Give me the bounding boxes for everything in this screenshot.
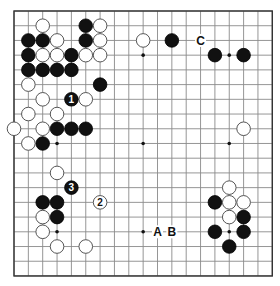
white-stone — [36, 48, 50, 62]
move-number: 2 — [97, 197, 103, 208]
star-point — [141, 53, 145, 57]
star-point — [227, 230, 231, 234]
white-stone — [50, 34, 64, 48]
white-stone — [22, 137, 36, 151]
white-stone — [93, 34, 107, 48]
move-number: 3 — [69, 182, 75, 193]
star-point — [55, 230, 59, 234]
black-stone — [65, 63, 79, 77]
black-stone — [208, 196, 222, 210]
white-stone — [222, 181, 236, 195]
white-stone — [93, 48, 107, 62]
white-stone — [50, 166, 64, 180]
move-number: 1 — [69, 94, 75, 105]
white-stone — [22, 107, 36, 121]
white-stone — [237, 196, 251, 210]
move-3: 3 — [65, 181, 79, 195]
black-stone — [208, 48, 222, 62]
star-point — [227, 142, 231, 146]
white-stone — [79, 93, 93, 107]
white-stone — [50, 48, 64, 62]
point-label-a: A — [153, 225, 162, 239]
white-stone — [50, 240, 64, 254]
black-stone — [22, 63, 36, 77]
black-stone — [237, 210, 251, 224]
white-stone — [237, 122, 251, 136]
white-stone — [36, 210, 50, 224]
star-point — [141, 230, 145, 234]
white-stone — [7, 122, 21, 136]
black-stone — [237, 225, 251, 239]
white-stone — [222, 196, 236, 210]
black-stone — [50, 210, 64, 224]
letter-labels: CAB — [152, 34, 206, 239]
black-stone — [93, 78, 107, 92]
black-stone — [65, 48, 79, 62]
star-point — [141, 142, 145, 146]
white-stone — [36, 225, 50, 239]
go-board: CAB 123 — [0, 0, 280, 286]
white-stone — [36, 93, 50, 107]
white-stone — [93, 19, 107, 33]
star-point — [55, 142, 59, 146]
black-stone — [36, 137, 50, 151]
black-stone — [50, 196, 64, 210]
black-stone — [79, 19, 93, 33]
white-stone — [222, 210, 236, 224]
black-stone — [36, 196, 50, 210]
white-stone — [50, 107, 64, 121]
black-stone — [237, 48, 251, 62]
move-1: 1 — [65, 93, 79, 107]
black-stone — [222, 240, 236, 254]
black-stone — [22, 48, 36, 62]
white-stone — [36, 122, 50, 136]
white-stone — [79, 48, 93, 62]
point-label-b: B — [168, 225, 177, 239]
move-2: 2 — [93, 196, 107, 210]
black-stone — [165, 34, 179, 48]
white-stone — [79, 240, 93, 254]
point-label-c: C — [196, 34, 205, 48]
black-stone — [22, 34, 36, 48]
white-stone — [36, 19, 50, 33]
black-stone — [65, 122, 79, 136]
black-stone — [36, 63, 50, 77]
white-stone — [136, 34, 150, 48]
white-stone — [22, 78, 36, 92]
black-stone — [50, 63, 64, 77]
black-stone — [79, 34, 93, 48]
star-point — [227, 53, 231, 57]
black-stone — [50, 122, 64, 136]
black-stone — [208, 225, 222, 239]
black-stone — [36, 34, 50, 48]
black-stone — [79, 122, 93, 136]
